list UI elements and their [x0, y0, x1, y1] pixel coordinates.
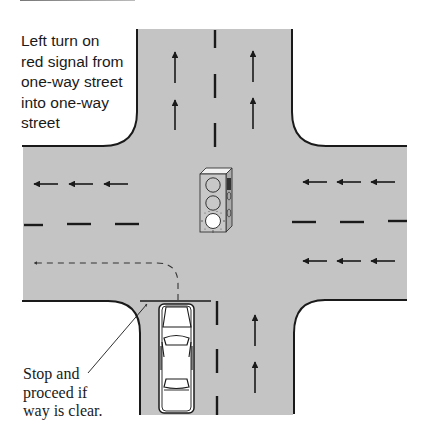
callout-line: proceed if [23, 384, 143, 403]
lane-divider-east [292, 221, 407, 222]
title-line: into one-way [21, 93, 141, 114]
signal-lamp-bottom-lit [206, 214, 221, 229]
callout-line: Stop and [23, 365, 143, 384]
curb-bottom-right [294, 300, 407, 414]
callout-leader [88, 304, 147, 373]
curb-top-right [292, 29, 407, 146]
title-line: one-way street [21, 72, 141, 93]
traffic-signal [200, 168, 232, 233]
title-line: street [21, 113, 141, 134]
callout-line: way is clear. [23, 402, 143, 421]
title-line: Left turn on [21, 31, 141, 52]
diagram-title: Left turn on red signal from one-way str… [21, 31, 141, 134]
stop-callout: Stop and proceed if way is clear. [23, 365, 143, 421]
lane-divider-west [24, 224, 139, 225]
car [159, 304, 194, 413]
signal-lamp-top [206, 178, 220, 192]
title-line: red signal from [21, 52, 141, 73]
signal-lamp-middle [206, 196, 220, 210]
